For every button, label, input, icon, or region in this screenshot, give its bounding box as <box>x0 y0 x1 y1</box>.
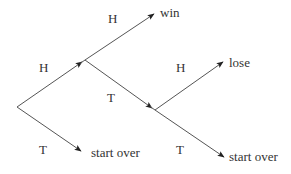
outcome-lose: lose <box>229 56 250 69</box>
edge-label-root-to-start-over: T <box>39 143 47 156</box>
edge-a-to-win <box>85 14 154 60</box>
edge-root-to-a-tail <box>80 60 85 64</box>
edge-label-root-to-a: H <box>39 61 48 74</box>
edge-root-to-a <box>17 62 82 107</box>
edge-label-a-to-b: T <box>107 91 115 104</box>
edge-root-to-start-over <box>17 107 81 151</box>
edge-b-to-start-over <box>155 110 224 157</box>
edge-a-to-b <box>85 60 152 108</box>
outcome-start-over-2: start over <box>229 150 278 163</box>
outcome-start-over-1: start over <box>91 146 140 159</box>
edge-label-b-to-lose: H <box>176 61 185 74</box>
edge-label-b-to-start-over: T <box>176 143 184 156</box>
edge-a-to-b-tail <box>150 107 155 111</box>
edge-b-to-lose <box>155 62 223 110</box>
edge-label-a-to-win: H <box>108 12 117 25</box>
outcome-win: win <box>160 6 180 19</box>
